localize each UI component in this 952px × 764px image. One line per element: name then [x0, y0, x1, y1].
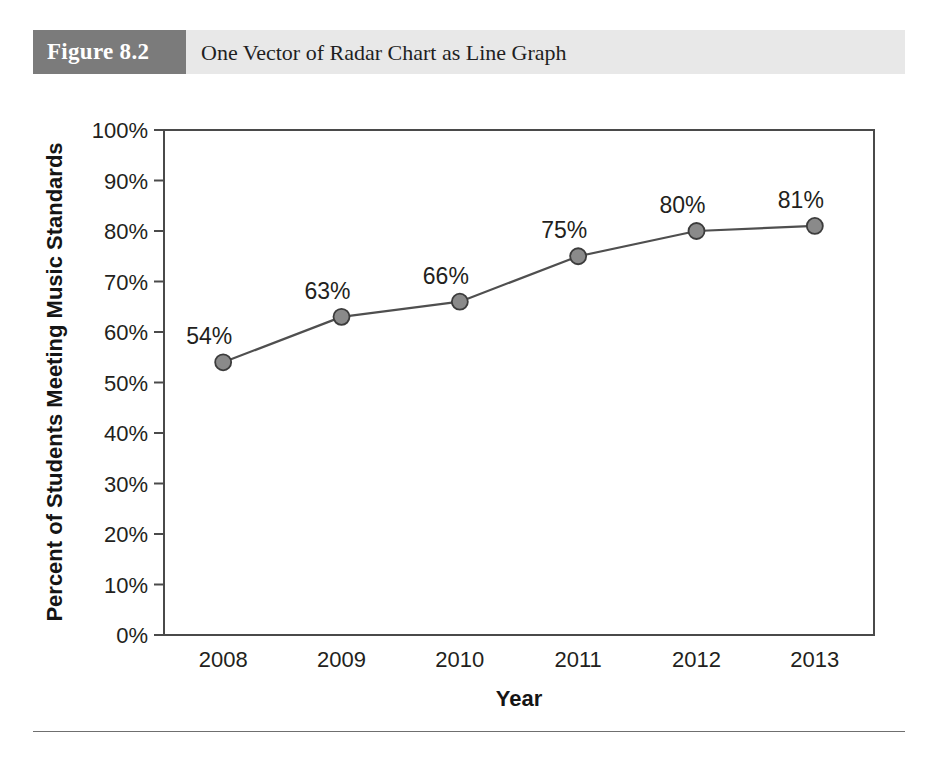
figure-number-label: Figure 8.2: [47, 39, 186, 65]
figure-title: One Vector of Radar Chart as Line Graph: [201, 40, 567, 66]
data-point-marker: [334, 309, 350, 325]
y-axis-title: Percent of Students Meeting Music Standa…: [42, 142, 67, 621]
figure-header: Figure 8.2 One Vector of Radar Chart as …: [33, 30, 905, 74]
plot-frame: [164, 130, 874, 635]
data-point-marker: [570, 248, 586, 264]
data-point-label: 75%: [541, 217, 587, 243]
x-tick-label: 2011: [555, 647, 602, 672]
y-tick-label: 90%: [104, 169, 148, 194]
x-tick-label: 2012: [672, 647, 721, 672]
data-point-label: 80%: [659, 192, 705, 218]
data-point-marker: [807, 218, 823, 234]
y-tick-label: 60%: [104, 320, 148, 345]
x-tick-label: 2009: [317, 647, 366, 672]
y-tick-label: 0%: [116, 623, 148, 648]
data-point-marker: [215, 354, 231, 370]
data-point-label: 63%: [304, 278, 350, 304]
y-tick-label: 50%: [104, 371, 148, 396]
y-tick-label: 80%: [104, 219, 148, 244]
y-tick-label: 30%: [104, 472, 148, 497]
data-point-marker: [452, 294, 468, 310]
chart-canvas: 0%10%20%30%40%50%60%70%80%90%100% 200820…: [0, 88, 952, 718]
y-axis-ticks: 0%10%20%30%40%50%60%70%80%90%100%: [92, 118, 164, 648]
y-tick-label: 70%: [104, 270, 148, 295]
y-tick-label: 10%: [104, 573, 148, 598]
data-point-marker: [689, 223, 705, 239]
x-tick-label: 2008: [199, 647, 248, 672]
data-point-label: 81%: [778, 187, 824, 213]
y-tick-label: 20%: [104, 522, 148, 547]
y-tick-label: 100%: [92, 118, 148, 143]
x-tick-label: 2010: [435, 647, 484, 672]
x-axis-labels: 200820092010201120122013: [199, 647, 840, 672]
x-axis-title: Year: [496, 686, 543, 711]
footer-divider: [33, 731, 905, 732]
y-tick-label: 40%: [104, 421, 148, 446]
data-point-label: 54%: [186, 323, 232, 349]
data-point-label: 66%: [423, 263, 469, 289]
line-chart: 0%10%20%30%40%50%60%70%80%90%100% 200820…: [0, 88, 952, 718]
x-tick-label: 2013: [790, 647, 839, 672]
series-point-labels: 54%63%66%75%80%81%: [186, 187, 824, 349]
